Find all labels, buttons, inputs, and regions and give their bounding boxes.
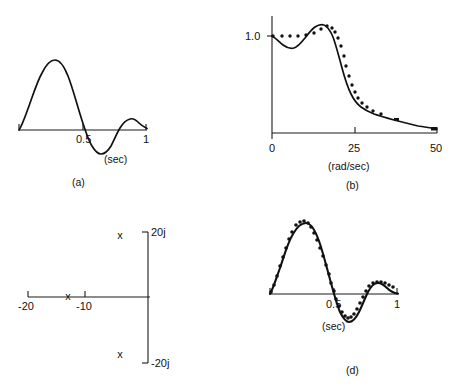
- panel-b-datapoint: [280, 34, 283, 37]
- panel-d-datapoint: [332, 289, 336, 293]
- panel-d-datapoint: [269, 290, 273, 294]
- panel-b-datapoint: [347, 74, 350, 77]
- panel-b-datapoint: [336, 36, 339, 39]
- panel-b-datapoint: [431, 127, 437, 131]
- panel-d-datapoint: [309, 225, 313, 229]
- panel-b-datapoint: [371, 109, 374, 112]
- panel-d-impulse-response-sampled: 0.5 1 (sec) (d): [226, 196, 452, 391]
- panel-b-datapoint: [356, 96, 359, 99]
- panel-b-datapoint: [325, 24, 328, 27]
- panel-d-datapoint: [379, 280, 383, 284]
- panel-c-pole-upper: x: [117, 229, 123, 241]
- panel-d-datapoint: [318, 246, 322, 250]
- panel-c-yticklabel-plus-20j: 20j: [151, 226, 166, 238]
- panel-d-datapoint: [321, 254, 325, 258]
- panel-d-datapoint: [343, 314, 347, 318]
- panel-d-datapoint: [329, 281, 333, 285]
- panel-d-xticklabel-1: 1: [394, 298, 400, 310]
- panel-b-datapoint: [339, 44, 342, 47]
- panel-d-datapoint: [361, 295, 365, 299]
- panel-d-datapoint: [284, 246, 288, 250]
- panel-b-datapoint: [304, 33, 307, 36]
- panel-d-datapoint: [278, 264, 282, 268]
- panel-b-datapoint: [353, 90, 356, 93]
- panel-d-datapoint: [302, 219, 306, 223]
- panel-d-datapoint: [272, 283, 276, 287]
- panel-d-datapoint: [294, 223, 298, 227]
- panel-b-datapoint: [296, 34, 299, 37]
- panel-d-xticklabel-0-5: 0.5: [326, 298, 341, 310]
- panel-c-pole-zero-plot: x x x -20 -10 20j -20j: [0, 196, 226, 391]
- panel-b-xticklabel-50: 50: [430, 142, 442, 154]
- panel-d-datapoint: [306, 221, 310, 225]
- panel-c-xticklabel-minus-10: -10: [76, 300, 92, 312]
- panel-a-impulse-response: 0.5 1 (sec) (a): [0, 0, 226, 196]
- panel-b-datapoint: [319, 27, 322, 30]
- panel-a-caption: (a): [72, 176, 85, 188]
- panel-b-datapoint: [365, 105, 368, 108]
- panel-b-datapoint: [288, 34, 291, 37]
- panel-d-datapoint: [349, 315, 353, 319]
- panel-d-datapoint: [298, 220, 302, 224]
- panel-d-caption: (d): [346, 364, 359, 376]
- panel-d-datapoint: [324, 263, 328, 267]
- panel-a-xlabel: (sec): [104, 153, 127, 165]
- panel-b-yticklabel-1-0: 1.0: [245, 30, 260, 42]
- panel-b-datapoint: [342, 54, 345, 57]
- figure-container: 0.5 1 (sec) (a): [0, 0, 452, 391]
- panel-c-pole-lower: x: [117, 348, 123, 360]
- panel-b-xlabel: (rad/sec): [328, 160, 369, 172]
- panel-d-datapoint: [327, 272, 331, 276]
- panel-b-datapoint: [394, 118, 399, 121]
- panel-d-datapoint: [315, 238, 319, 242]
- panel-d-xlabel: (sec): [322, 320, 345, 332]
- panel-d-datapoint: [375, 280, 379, 284]
- panel-d-datapoint: [340, 310, 344, 314]
- panel-b-datapoint: [344, 64, 347, 67]
- panel-d-datapoint: [364, 289, 368, 293]
- panel-d-datapoint: [387, 283, 391, 287]
- panel-b-xticklabel-25: 25: [348, 142, 360, 154]
- panel-b-datapoint: [330, 26, 333, 29]
- panel-a-xticklabel-0-5: 0.5: [76, 133, 91, 145]
- panel-d-datapoint: [287, 237, 291, 241]
- panel-d-datapoint: [290, 230, 294, 234]
- panel-d-datapoint: [367, 284, 371, 288]
- panel-c-xticklabel-minus-20: -20: [18, 300, 34, 312]
- panel-b-datapoint: [312, 31, 315, 34]
- panel-b-datapoint: [350, 83, 353, 86]
- panel-b-datapoint: [333, 30, 336, 33]
- panel-d-datapoint: [358, 301, 362, 305]
- panel-d-datapoint: [383, 281, 387, 285]
- panel-b-xticklabel-0: 0: [269, 142, 275, 154]
- panel-b-magnitude-curve: [272, 25, 437, 129]
- panel-d-datapoint: [352, 312, 356, 316]
- panel-c-yticklabel-minus-20j: -20j: [151, 357, 169, 369]
- panel-b-datapoint: [360, 101, 363, 104]
- panel-d-datapoint: [312, 231, 316, 235]
- panel-d-datapoint: [275, 274, 279, 278]
- panel-a-xticklabel-1: 1: [143, 133, 149, 145]
- panel-b-datapoint: [379, 112, 382, 115]
- panel-d-datapoint: [281, 255, 285, 259]
- panel-d-datapoint: [371, 281, 375, 285]
- panel-b-caption: (b): [346, 179, 359, 191]
- panel-b-frequency-response: 1.0 0 25 50 (rad/sec) (b): [226, 0, 452, 196]
- panel-d-datapoint: [391, 285, 395, 289]
- panel-b-datapoint: [271, 34, 274, 37]
- panel-c-pole-real: x: [65, 290, 71, 302]
- panel-d-datapoint: [355, 307, 359, 311]
